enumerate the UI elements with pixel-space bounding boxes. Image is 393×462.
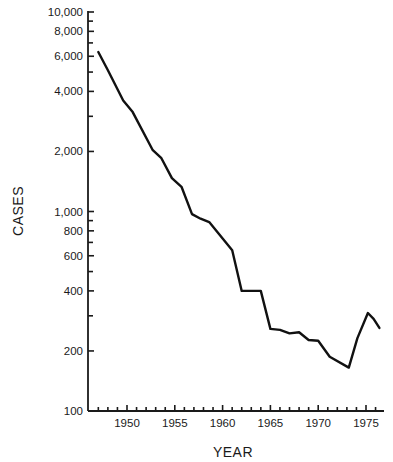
- x-tick-label: 1970: [305, 417, 331, 429]
- x-tick-label: 1960: [210, 417, 236, 429]
- y-tick-label: 600: [64, 250, 83, 262]
- y-tick-label: 200: [64, 345, 83, 357]
- x-tick-label: 1975: [353, 417, 379, 429]
- y-tick-label: 2,000: [54, 145, 83, 157]
- y-tick-label: 6,000: [54, 50, 83, 62]
- y-tick-label: 8,000: [54, 25, 83, 37]
- line-chart: 1002004006008001,0002,0004,0006,0008,000…: [0, 0, 393, 462]
- y-tick-label: 10,000: [48, 6, 83, 18]
- y-tick-label: 4,000: [54, 85, 83, 97]
- y-axis-title: CASES: [10, 186, 26, 236]
- y-tick-label: 400: [64, 285, 83, 297]
- cases-line: [98, 52, 379, 368]
- y-axis: 1002004006008001,0002,0004,0006,0008,000…: [48, 6, 94, 417]
- x-axis: 195019551960196519701975: [88, 405, 384, 429]
- y-tick-label: 1,000: [54, 206, 83, 218]
- data-series: [98, 52, 379, 368]
- x-tick-label: 1950: [114, 417, 140, 429]
- x-tick-label: 1955: [162, 417, 188, 429]
- y-tick-label: 100: [64, 405, 83, 417]
- x-tick-label: 1965: [258, 417, 284, 429]
- y-tick-label: 800: [64, 225, 83, 237]
- x-axis-title: YEAR: [213, 444, 253, 460]
